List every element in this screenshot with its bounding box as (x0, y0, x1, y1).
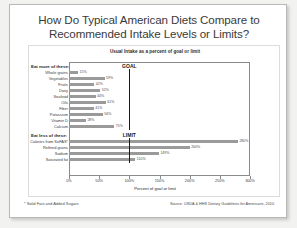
category-label: Sodium (0, 151, 68, 156)
bar (69, 95, 96, 99)
chart-panel: Usual Intake as a percent of goal or lim… (28, 45, 280, 197)
bar (69, 77, 105, 81)
group-heading-eat-more: Eat more of these: (31, 64, 69, 69)
bar-value-label: 280% (239, 139, 248, 143)
marker-line-goal (129, 69, 131, 130)
chart-plot-area: Eat more of these:Whole grains15%Vegetab… (29, 46, 281, 198)
category-label: Saturated fat (0, 157, 68, 162)
category-label: Whole grains (0, 70, 68, 75)
bar-value-label: 110% (137, 157, 146, 161)
chart-footnote: * Solid Fats and Added Sugars (24, 201, 78, 206)
bar-value-label: 56% (104, 112, 111, 116)
bar (69, 89, 100, 93)
category-label: Calcium (0, 124, 68, 129)
category-label: Vitamin D (0, 118, 68, 123)
x-axis-tick-label: 50% (95, 179, 103, 183)
bar (69, 71, 78, 75)
category-label: Seafood (0, 94, 68, 99)
bar-value-label: 52% (102, 88, 109, 92)
marker-label-limit: LIMIT (123, 132, 136, 138)
bar-value-label: 28% (87, 118, 94, 122)
bar (69, 158, 135, 162)
page-background: How Do Typical American Diets Compare to… (0, 0, 297, 228)
bar (69, 140, 238, 144)
bar (69, 107, 94, 111)
category-label: Potassium (0, 112, 68, 117)
bar-value-label: 42% (96, 82, 103, 86)
bar (69, 83, 94, 87)
chart-card: How Do Typical American Diets Compare to… (9, 4, 287, 218)
x-axis-tick-label: 0% (66, 179, 72, 183)
bar-value-label: 75% (116, 124, 123, 128)
bar-value-label: 61% (107, 100, 114, 104)
chart-source: Source: USDA & HHS Dietary Guidelines fo… (170, 202, 274, 206)
category-label: Vegetables (0, 76, 68, 81)
x-axis-tick-label: 100% (124, 179, 134, 183)
x-axis-title: Percent of goal or limit (29, 186, 281, 191)
bar (69, 119, 86, 123)
bar-value-label: 59% (106, 76, 113, 80)
category-label: Fruits (0, 82, 68, 87)
bar (69, 152, 159, 156)
bar-value-label: 149% (160, 151, 169, 155)
category-label: Dairy (0, 88, 68, 93)
x-axis-tick-label: 300% (245, 179, 255, 183)
bar-value-label: 41% (95, 106, 102, 110)
bar-value-label: 15% (80, 70, 87, 74)
page-title: How Do Typical American Diets Compare to… (20, 13, 278, 41)
bar (69, 113, 103, 117)
bar (69, 101, 106, 105)
x-axis-tick-label: 200% (185, 179, 195, 183)
marker-label-goal: GOAL (122, 63, 136, 69)
x-axis-tick-label: 150% (155, 179, 165, 183)
bar (69, 125, 114, 129)
category-label: Calories from SoFAS* (0, 139, 68, 144)
bar-value-label: 200% (191, 145, 200, 149)
marker-line-limit (129, 138, 131, 163)
category-label: Refined grains (0, 145, 68, 150)
group-heading-eat-less: Eat less of these: (31, 133, 67, 138)
bar-value-label: 44% (97, 94, 104, 98)
x-axis-tick-label: 250% (215, 179, 225, 183)
category-label: Oils (0, 100, 68, 105)
category-label: Fiber (0, 106, 68, 111)
